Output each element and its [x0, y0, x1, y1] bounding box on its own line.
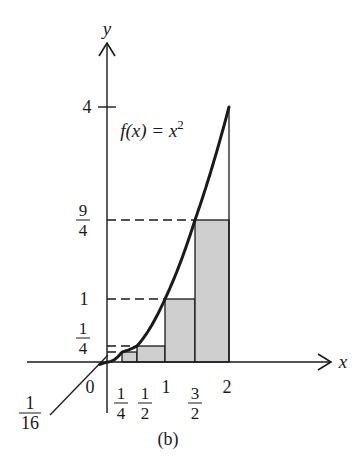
y-tick-label-3-numerator: 1 [79, 319, 88, 338]
x-tick-label-2: 12 [138, 384, 152, 423]
plot-canvas: yxf(x) = x2494114014121322116(b) [0, 0, 353, 457]
x-axis-label: x [338, 351, 348, 372]
x-tick-label-4-denominator: 2 [191, 404, 200, 423]
x-tick-label-1: 14 [114, 384, 128, 423]
riemann-sum-figure: yxf(x) = x2494114014121322116(b) [0, 0, 353, 457]
y-tick-label-3: 14 [76, 319, 90, 358]
callout-pointer-line [50, 355, 108, 415]
y-tick-label-1-denominator: 4 [79, 221, 88, 240]
riemann-rectangle-3 [165, 299, 195, 362]
x-tick-label-1-numerator: 1 [117, 384, 126, 403]
x-tick-label-2-numerator: 1 [141, 384, 150, 403]
x-tick-label-4: 32 [188, 384, 202, 423]
x-tick-label-2-denominator: 2 [141, 404, 150, 423]
function-label-text: f(x) = x [120, 120, 178, 142]
riemann-rectangle-4 [195, 220, 229, 362]
y-tick-label-2: 1 [80, 289, 89, 309]
x-tick-label-3: 1 [162, 377, 171, 397]
function-label: f(x) = x2 [120, 117, 184, 142]
riemann-rectangle-2 [137, 346, 165, 362]
x-tick-label-1-denominator: 4 [117, 404, 126, 423]
y-tick-label-3-denominator: 4 [79, 339, 88, 358]
y-tick-label-0: 4 [83, 97, 92, 117]
y-tick-label-1: 94 [76, 201, 90, 240]
function-label-exponent: 2 [177, 117, 184, 132]
x-tick-label-0: 0 [86, 377, 95, 397]
callout-label-1-16-denominator: 16 [21, 413, 39, 433]
figure-caption: (b) [158, 429, 179, 450]
riemann-rectangle-1 [122, 352, 137, 362]
x-tick-label-4-numerator: 3 [191, 384, 200, 403]
callout-label-1-16-numerator: 1 [26, 393, 35, 413]
y-tick-label-1-numerator: 9 [79, 201, 88, 220]
callout-label-1-16: 116 [19, 393, 41, 433]
y-axis-label: y [101, 18, 112, 39]
x-tick-label-5: 2 [223, 377, 232, 397]
